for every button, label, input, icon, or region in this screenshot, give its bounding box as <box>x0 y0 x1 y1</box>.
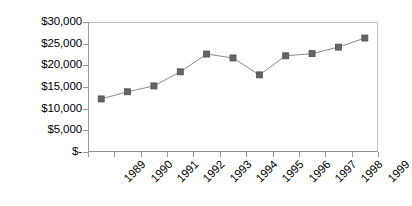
x-axis-tick-label: 1999 <box>385 158 411 184</box>
x-axis-tick-label: 1991 <box>174 158 200 184</box>
x-axis-tick-label: 1998 <box>359 158 385 184</box>
x-axis-tick-label: 1992 <box>201 158 227 184</box>
x-axis-tick-label: 1989 <box>122 158 148 184</box>
x-axis-tick-label: 1990 <box>148 158 174 184</box>
x-axis-tick-label: 1993 <box>227 158 253 184</box>
x-axis-tick-label: 1994 <box>253 158 279 184</box>
x-axis-tick-label: 1996 <box>306 158 332 184</box>
x-axis-tick-label: 1995 <box>280 158 306 184</box>
x-axis-tick-label: 1997 <box>332 158 358 184</box>
